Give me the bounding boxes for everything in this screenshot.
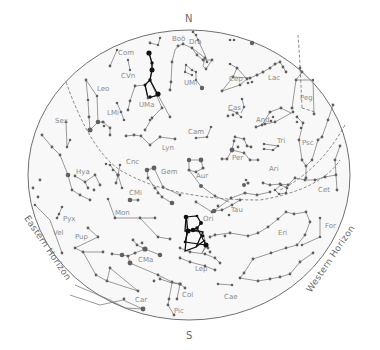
constellation-label-per: Per <box>232 154 243 162</box>
constellation-label-uma: UMa <box>139 101 154 109</box>
constellation-label-leo: Leo <box>97 85 109 93</box>
constellation-label-lmi: LMi <box>107 109 119 117</box>
constellation-label-col: Col <box>182 291 193 299</box>
constellation-label-ari: Ari <box>269 165 279 173</box>
constellation-label-hya: Hya <box>76 168 90 176</box>
constellation-label-com: Com <box>118 49 134 57</box>
constellation-label-tau: Tau <box>230 206 243 214</box>
constellation-label-cam: Cam <box>188 128 204 136</box>
constellation-label-cep: Cep <box>229 75 243 83</box>
constellation-label-for: For <box>325 222 336 230</box>
constellation-label-lep: Lep <box>195 265 208 273</box>
constellation-label-lac: Lac <box>268 74 280 82</box>
constellation-label-peg: Peg <box>300 94 313 102</box>
constellation-label-cvn: CVn <box>121 72 135 80</box>
constellation-label-cma: CMa <box>138 256 153 264</box>
constellation-label-vel: Vel <box>53 229 64 237</box>
constellation-label-sex: Sex <box>55 117 68 125</box>
constellation-label-tri: Tri <box>276 137 285 145</box>
constellation-label-gem: Gem <box>161 168 178 176</box>
constellation-label-cae: Cae <box>224 293 237 301</box>
star-chart: N S Eastern Horizon Western Horizon <box>0 0 380 350</box>
constellation-label-psc: Psc <box>302 139 314 147</box>
north-label: N <box>185 13 192 24</box>
constellation-label-cas: Cas <box>228 104 241 112</box>
constellation-label-boö: Boö <box>172 35 185 43</box>
constellation-label-pup: Pup <box>75 233 89 241</box>
constellation-label-cmi: CMi <box>129 189 142 197</box>
constellation-label-cet: Cet <box>318 186 330 194</box>
constellation-label-and: And <box>256 116 270 124</box>
constellation-label-car: Car <box>135 296 147 304</box>
constellation-label-aur: Aur <box>196 172 208 180</box>
constellation-label-pic: Pic <box>174 307 184 315</box>
constellation-label-mon: Mon <box>115 209 130 217</box>
south-label: S <box>186 330 192 341</box>
constellation-label-pyx: Pyx <box>63 215 76 223</box>
constellation-label-dra: Dra <box>189 38 202 46</box>
constellation-label-eri: Eri <box>278 229 287 237</box>
constellation-label-ori: Ori <box>203 215 213 223</box>
constellation-label-umi: UMi <box>184 79 197 87</box>
constellation-label-cnc: Cnc <box>126 158 139 166</box>
constellation-label-lyn: Lyn <box>162 144 174 152</box>
